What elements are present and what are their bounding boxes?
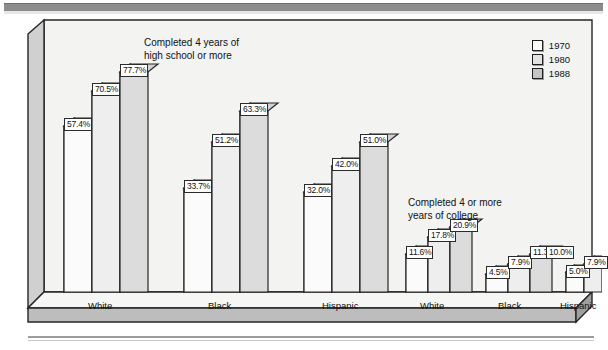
legend-swatch-icon-1988 — [532, 68, 543, 79]
value-label-hs-black-1970: 33.7% — [184, 180, 212, 193]
legend-label-1980: 1980 — [549, 54, 570, 65]
bar-front-hs-white-1980 — [92, 91, 120, 292]
axis-label-group-2: Black — [208, 300, 231, 311]
value-label-hs-hispanic-1980: 42.0% — [332, 158, 360, 171]
bar-front-hs-hispanic-1988 — [360, 142, 388, 292]
bottom-rule-shadow — [28, 340, 594, 341]
legend-item-1970[interactable]: 1970 — [532, 40, 570, 51]
value-label-hs-white-1980: 70.5% — [92, 83, 120, 96]
value-label-hs-white-1970: 57.4% — [64, 118, 92, 131]
bottom-rule — [28, 336, 594, 338]
value-label-co-hispanic-1980: 7.9% — [584, 256, 608, 269]
bar-front-hs-black-1970 — [184, 188, 212, 292]
value-label-hs-black-1980: 51.2% — [212, 134, 240, 147]
value-label-hs-hispanic-1970: 32.0% — [304, 184, 332, 197]
legend-label-1988: 1988 — [549, 68, 570, 79]
plot-area: 57.4% 70.5% 77.7% 33.7% 51.2% 63.3% 32.0… — [26, 18, 594, 330]
caption-college: Completed 4 or more years of college — [408, 196, 502, 222]
bar-front-hs-white-1988 — [120, 72, 148, 292]
value-label-hs-hispanic-1988: 51.0% — [360, 134, 388, 147]
bar-front-hs-black-1988 — [240, 111, 268, 292]
axis-label-group-3: Hispanic — [322, 300, 358, 311]
bar-front-hs-white-1970 — [64, 126, 92, 292]
legend-item-1988[interactable]: 1988 — [532, 68, 570, 79]
top-decoration-band-shadow — [4, 11, 603, 14]
value-label-co-black-1970: 4.5% — [486, 266, 510, 279]
value-label-co-white-1970: 11.6% — [406, 246, 433, 259]
legend-label-1970: 1970 — [549, 40, 570, 51]
bar-front-hs-hispanic-1970 — [304, 192, 332, 292]
value-label-co-hispanic-1988: 10.0% — [546, 246, 574, 259]
value-label-co-black-1980: 7.9% — [508, 256, 532, 269]
value-label-hs-black-1988: 63.3% — [240, 103, 268, 116]
axis-label-group-6: Hispanic — [560, 300, 596, 311]
bar-front-hs-hispanic-1980 — [332, 166, 360, 292]
axis-label-group-5: Black — [498, 300, 521, 311]
chart-left-wall — [28, 20, 44, 308]
legend-swatch-icon-1970 — [532, 40, 543, 51]
bar-front-hs-black-1980 — [212, 142, 240, 292]
axis-label-group-4: White — [420, 300, 444, 311]
bar-front-co-white-1970 — [406, 254, 428, 292]
legend-swatch-icon-1980 — [532, 54, 543, 65]
value-label-hs-white-1988: 77.7% — [120, 64, 148, 77]
legend-item-1980[interactable]: 1980 — [532, 54, 570, 65]
chart-legend: 1970 1980 1988 — [532, 40, 570, 82]
caption-high-school: Completed 4 years of high school or more — [144, 36, 239, 62]
axis-label-group-1: White — [88, 300, 112, 311]
